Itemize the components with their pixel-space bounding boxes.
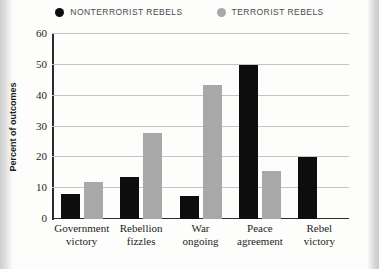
y-axis-title-label: Percent of outcomes bbox=[8, 82, 18, 171]
y-tick-label: 10 bbox=[36, 181, 47, 193]
legend-label: TERRORIST REBELS bbox=[232, 7, 324, 17]
x-tick-label-line1: Rebellion bbox=[120, 222, 163, 234]
x-tick-label: Rebellionfizzles bbox=[111, 222, 170, 247]
bar-chart-figure: NONTERRORIST REBELSTERRORIST REBELS Perc… bbox=[0, 0, 379, 269]
bar bbox=[298, 157, 317, 219]
x-tick-label-line2: victory bbox=[52, 235, 111, 248]
bar bbox=[203, 85, 222, 219]
y-tick-label: 30 bbox=[36, 120, 47, 132]
x-tick-label-line2: fizzles bbox=[111, 235, 170, 248]
bar bbox=[239, 65, 258, 219]
x-tick-label-line2: agreement bbox=[230, 235, 289, 248]
x-tick-label-line1: War bbox=[191, 222, 209, 234]
y-axis-title: Percent of outcomes bbox=[6, 34, 20, 219]
x-tick-label-line1: Peace bbox=[247, 222, 273, 234]
filled-circle-icon bbox=[55, 8, 64, 17]
legend-entry: NONTERRORIST REBELS bbox=[55, 7, 182, 17]
bar-group bbox=[171, 34, 230, 219]
bar-group bbox=[52, 34, 111, 219]
x-axis-labels: GovernmentvictoryRebellionfizzlesWarongo… bbox=[52, 222, 349, 247]
y-tick-label: 60 bbox=[36, 27, 47, 39]
y-tick-label: 0 bbox=[42, 212, 48, 224]
bar bbox=[262, 171, 281, 219]
bar-group bbox=[111, 34, 170, 219]
bar bbox=[143, 133, 162, 219]
x-tick-label-line2: ongoing bbox=[171, 235, 230, 248]
bar bbox=[61, 194, 80, 219]
bar bbox=[180, 196, 199, 219]
x-tick-label-line1: Rebel bbox=[306, 222, 332, 234]
bar-group bbox=[230, 34, 289, 219]
y-tick-label: 40 bbox=[36, 89, 47, 101]
y-tick-label: 50 bbox=[36, 58, 47, 70]
legend-label: NONTERRORIST REBELS bbox=[70, 7, 182, 17]
x-tick-label: Governmentvictory bbox=[52, 222, 111, 247]
x-tick-label-line1: Government bbox=[54, 222, 109, 234]
x-tick-label: Peaceagreement bbox=[230, 222, 289, 247]
chart-legend: NONTERRORIST REBELSTERRORIST REBELS bbox=[0, 4, 379, 20]
bar bbox=[84, 182, 103, 219]
filled-circle-icon bbox=[217, 8, 226, 17]
bar bbox=[120, 177, 139, 219]
y-tick-label: 20 bbox=[36, 150, 47, 162]
plot-area: 0102030405060 bbox=[52, 34, 349, 219]
bar-group bbox=[290, 34, 349, 219]
x-tick-label-line2: victory bbox=[290, 235, 349, 248]
bars-layer bbox=[52, 34, 349, 219]
x-tick-label: Warongoing bbox=[171, 222, 230, 247]
x-tick-label: Rebelvictory bbox=[290, 222, 349, 247]
legend-entry: TERRORIST REBELS bbox=[217, 7, 324, 17]
page-gutter-right bbox=[367, 0, 379, 269]
